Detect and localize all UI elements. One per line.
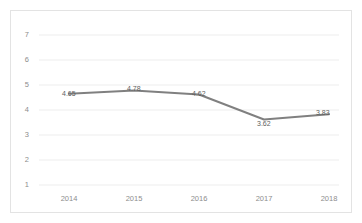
gridlines [39,35,339,185]
data-label-2015: 4.78 [127,85,141,93]
x-axis-tick-2016: 2016 [179,195,219,203]
x-axis-tick-2014: 2014 [49,195,89,203]
data-label-2014: 4.65 [62,90,76,98]
plot-area: 7 6 5 4 3 2 1 2014 2015 2016 2017 2018 4… [11,11,353,214]
data-label-2017: 3.62 [257,120,271,128]
x-axis-tick-2018: 2018 [309,195,349,203]
y-axis-tick-1: 1 [15,181,29,189]
x-axis-tick-2017: 2017 [244,195,284,203]
y-axis-tick-3: 3 [15,131,29,139]
data-label-2018: 3.83 [316,109,330,117]
x-axis-tick-2015: 2015 [114,195,154,203]
y-axis-tick-5: 5 [15,81,29,89]
y-axis-tick-6: 6 [15,56,29,64]
y-axis-tick-7: 7 [15,31,29,39]
y-axis-tick-2: 2 [15,156,29,164]
chart-container: 7 6 5 4 3 2 1 2014 2015 2016 2017 2018 4… [10,10,352,213]
y-axis-tick-4: 4 [15,106,29,114]
line-chart-svg [11,11,353,214]
data-label-2016: 4.62 [192,90,206,98]
